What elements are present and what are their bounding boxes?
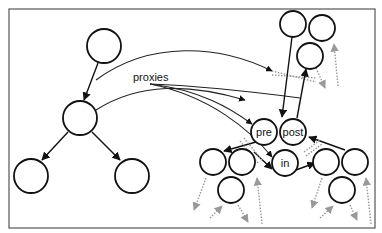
br-right-node xyxy=(342,149,368,175)
proxies-label: proxies xyxy=(133,71,169,83)
right-top-left-node xyxy=(280,11,306,37)
right-top-right-node xyxy=(309,15,335,41)
br-left-node xyxy=(313,149,339,175)
diagram-svg: proxies pre post in xyxy=(0,0,382,233)
post-label: post xyxy=(283,126,304,138)
left-bottom-right-node xyxy=(115,159,149,193)
left-middle-node xyxy=(63,101,97,135)
left-bottom-left-node xyxy=(14,159,48,193)
br-bottom-node xyxy=(329,177,355,203)
in-label: in xyxy=(281,157,290,169)
left-root-node xyxy=(87,29,121,63)
right-upper-node xyxy=(297,43,323,69)
bl-right-node xyxy=(229,149,255,175)
pre-label: pre xyxy=(256,126,272,138)
diagram-canvas: proxies pre post in xyxy=(0,0,382,233)
bl-left-node xyxy=(200,149,226,175)
bl-bottom-node xyxy=(218,177,244,203)
